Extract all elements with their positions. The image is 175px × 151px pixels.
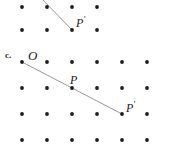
label-point-p-prime: P′ [126,100,135,114]
label-point-o: O [28,49,37,62]
grid-dot [70,5,74,9]
grid-dot [45,28,49,32]
grid-dot [120,86,124,90]
grid-dot [20,28,24,32]
prime-mark: ′ [133,99,135,109]
label-upper-p-prime: P′ [76,15,85,29]
grid-dot [20,86,24,90]
grid-dot [95,28,99,32]
grid-dot [45,5,49,9]
grid-dot [95,112,99,116]
grid-dot [145,138,149,142]
grid-dot [120,138,124,142]
grid-dot [95,5,99,9]
grid-dot [45,138,49,142]
grid-dot [45,60,49,64]
grid-dot [20,138,24,142]
grid-dot [70,138,74,142]
grid-dot [70,112,74,116]
grid-dot [45,112,49,116]
grid-dot [70,60,74,64]
grid-dot [120,60,124,64]
label-point-p: P [70,74,77,86]
grid-dot [145,86,149,90]
grid-dot [20,112,24,116]
grid-dot [120,112,124,116]
prime-mark: ′ [83,14,85,24]
grid-dot [70,28,74,32]
grid-dot [95,138,99,142]
grid-dot [145,112,149,116]
grid-dot [45,86,49,90]
grid-dot [95,60,99,64]
dot-grid-figure [0,0,175,151]
ray-to-P-prime [43,0,72,30]
grid-dot [145,60,149,64]
grid-dot [20,5,24,9]
grid-dot [95,86,99,90]
grid-dot [20,60,24,64]
figure-root: c. P′ O P P′ [0,0,175,151]
part-label-c: c. [5,51,11,60]
